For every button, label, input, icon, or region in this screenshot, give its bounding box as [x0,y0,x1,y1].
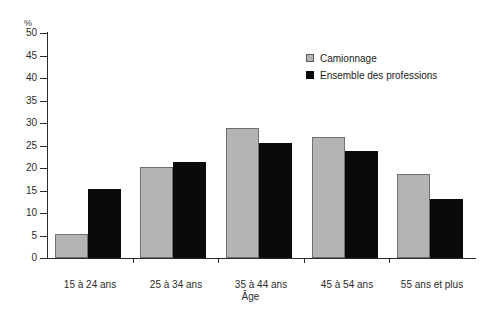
bar [397,174,430,258]
dark-square-swatch-icon [306,71,314,79]
y-tick-label: 30 [0,118,37,128]
x-category-label: 25 à 34 ans [133,279,219,290]
y-tick-mark [40,146,47,147]
x-axis-title: Âge [0,291,501,302]
y-tick-mark [40,33,47,34]
y-tick-mark [40,168,47,169]
legend-label: Ensemble des professions [320,70,437,81]
bar [430,199,463,258]
bar-chart: % 50454035302520151050 15 à 24 ans25 à 3… [0,0,501,315]
y-tick-mark [40,258,47,259]
x-tick-mark [218,258,219,263]
y-tick-label-text: 25 [3,141,37,151]
y-tick-label-text: 30 [3,118,37,128]
y-tick-label-text: 45 [3,51,37,61]
y-tick-label: 50 [0,28,37,38]
y-tick-label: 35 [0,96,37,106]
y-tick-label: 5 [0,231,37,241]
x-tick-mark [304,258,305,263]
y-tick-label: 25 [0,141,37,151]
y-tick-label-text: 50 [3,28,37,38]
bar [173,162,206,258]
bar [55,234,88,258]
y-tick-label-text: 20 [3,163,37,173]
x-category-label: 15 à 24 ans [47,279,133,290]
bar [345,151,378,258]
y-tick-mark [40,191,47,192]
x-category-label: 45 à 54 ans [304,279,390,290]
y-tick-mark [40,236,47,237]
y-tick-label: 15 [0,186,37,196]
bar [88,189,121,258]
y-tick-label: 0 [0,253,37,263]
y-tick-label-text: 5 [3,231,37,241]
legend-item-ensemble-des-professions: Ensemble des professions [306,68,437,82]
y-tick-mark [40,56,47,57]
x-axis-line [47,258,476,259]
x-tick-mark [389,258,390,263]
legend-label: Camionnage [320,53,377,64]
y-tick-label: 40 [0,73,37,83]
x-tick-mark [133,258,134,263]
y-tick-mark [40,123,47,124]
light-square-swatch-icon [306,54,314,62]
y-tick-mark [40,101,47,102]
y-tick-mark [40,213,47,214]
chart-legend: Camionnage Ensemble des professions [306,51,437,85]
bar [312,137,345,258]
y-tick-label-text: 0 [3,253,37,263]
x-category-label: 55 ans et plus [389,279,475,290]
y-tick-label-text: 15 [3,186,37,196]
legend-item-camionnage: Camionnage [306,51,437,65]
y-tick-label-text: 35 [3,96,37,106]
y-tick-label: 10 [0,208,37,218]
y-tick-label: 20 [0,163,37,173]
y-tick-label-text: 10 [3,208,37,218]
y-tick-label: 45 [0,51,37,61]
bar [140,167,173,258]
bar [226,128,259,258]
y-tick-mark [40,78,47,79]
bar [259,143,292,258]
y-tick-label-text: 40 [3,73,37,83]
x-category-label: 35 à 44 ans [218,279,304,290]
